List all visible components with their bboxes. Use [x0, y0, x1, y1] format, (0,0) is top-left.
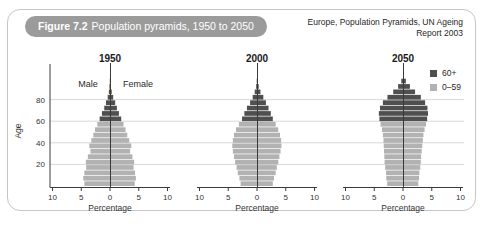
percentage-tick-label: 10	[456, 193, 465, 202]
legend-item-60plus: 60+	[430, 68, 461, 78]
pyramid-bar-female	[110, 138, 129, 143]
pyramid-bar-male	[95, 127, 110, 132]
pyramid-bar-female	[110, 149, 130, 154]
pyramid-title: 1950	[99, 53, 122, 64]
pyramid-bar-male	[89, 144, 110, 149]
pyramid-bar-female	[110, 106, 117, 111]
percentage-tick-label: 5	[430, 193, 435, 202]
source-citation: Europe, Population Pyramids, UN Ageing R…	[308, 17, 463, 39]
pyramid-1950: 1050510Percentage1950	[48, 53, 172, 213]
age-tick-label: 60	[36, 117, 45, 126]
pyramid-bar-female	[110, 154, 132, 159]
pyramid-bar-female	[110, 181, 135, 186]
pyramid-bar-male	[401, 79, 403, 84]
pyramid-bar-male	[83, 176, 110, 181]
pyramid-bar-male	[255, 90, 257, 95]
legend-label-60plus: 60+	[442, 68, 456, 78]
pyramid-2000: 1050510Percentage2000	[195, 53, 319, 213]
legend-label-0-59: 0–59	[442, 82, 461, 92]
pyramid-bar-male	[86, 165, 110, 170]
pyramid-bar-male	[242, 117, 257, 122]
percentage-axis-label: Percentage	[381, 203, 425, 213]
pyramid-bar-male	[239, 122, 257, 127]
age-axis-label: Age	[13, 123, 23, 138]
pyramid-bar-female	[403, 106, 427, 111]
pyramid-bar-female	[110, 144, 131, 149]
pyramid-bar-male	[236, 127, 257, 132]
pyramid-bar-male	[238, 171, 257, 176]
pyramid-bar-male	[386, 176, 403, 181]
pyramid-bar-female	[403, 138, 423, 143]
percentage-tick-label: 0	[401, 193, 406, 202]
pyramid-bar-female	[110, 176, 136, 181]
pyramid-bar-female	[403, 133, 423, 138]
pyramid-bar-female	[403, 127, 425, 132]
pyramid-bar-female	[403, 95, 421, 100]
pyramid-bar-male	[398, 84, 403, 89]
percentage-axis-label: Percentage	[88, 203, 132, 213]
pyramid-bar-female	[110, 133, 127, 138]
percentage-tick-label: 5	[137, 193, 142, 202]
pyramid-bar-male	[234, 133, 257, 138]
pyramid-bar-female	[110, 127, 126, 132]
percentage-tick-label: 5	[284, 193, 289, 202]
pyramid-bar-male	[232, 144, 257, 149]
pyramid-title: 2050	[392, 53, 415, 64]
pyramid-bar-female	[257, 106, 269, 111]
pyramid-bar-female	[403, 176, 419, 181]
pyramid-bar-female	[257, 117, 273, 122]
pyramid-bar-male	[384, 149, 403, 154]
legend-item-0-59: 0–59	[430, 82, 461, 92]
pyramid-bar-male	[109, 90, 110, 95]
age-tick-label: 20	[36, 160, 45, 169]
pyramid-bar-male	[393, 90, 403, 95]
pyramid-bar-female	[403, 154, 421, 159]
percentage-tick-label: 0	[108, 193, 113, 202]
percentage-axis-label: Percentage	[235, 203, 279, 213]
percentage-tick-label: 10	[341, 193, 350, 202]
pyramid-bar-male	[109, 84, 110, 89]
pyramid-bar-female	[257, 100, 266, 105]
pyramid-bar-female	[257, 149, 281, 154]
pyramid-bar-male	[386, 171, 403, 176]
male-label: Male	[78, 79, 98, 89]
pyramid-bar-female	[403, 122, 426, 127]
pyramid-bar-male	[383, 138, 403, 143]
percentage-tick-label: 5	[226, 193, 231, 202]
age-tick-label: 80	[36, 96, 45, 105]
pyramid-bar-female	[257, 181, 273, 186]
pyramid-bar-female	[403, 117, 427, 122]
legend: 60+ 0–59	[430, 68, 461, 96]
pyramid-bar-female	[257, 127, 278, 132]
pyramid-bar-female	[403, 160, 421, 165]
pyramid-bar-female	[257, 144, 281, 149]
figure-header-pill: Figure 7.2Population pyramids, 1950 to 2…	[25, 16, 267, 37]
pyramid-bar-male	[244, 111, 257, 116]
female-label: Female	[123, 79, 153, 89]
pyramid-bar-male	[90, 149, 110, 154]
pyramid-bar-female	[257, 133, 280, 138]
pyramid-bar-male	[88, 154, 110, 159]
pyramid-bar-female	[110, 171, 135, 176]
pyramid-bar-female	[403, 149, 422, 154]
pyramid-bar-female	[403, 100, 425, 105]
pyramid-bar-male	[241, 181, 257, 186]
pyramid-bar-male	[387, 95, 403, 100]
pyramid-bar-male	[97, 122, 110, 127]
pyramid-bar-male	[383, 100, 403, 105]
age-tick-label: 40	[36, 139, 45, 148]
pyramid-bar-male	[379, 117, 403, 122]
pyramid-bar-male	[234, 154, 257, 159]
percentage-tick-label: 10	[48, 193, 57, 202]
source-line-1: Europe, Population Pyramids, UN Ageing	[308, 17, 463, 28]
pyramid-bar-male	[384, 144, 403, 149]
pyramid-bar-female	[110, 117, 121, 122]
pyramid-bar-male	[233, 149, 257, 154]
percentage-tick-label: 10	[310, 193, 319, 202]
pyramid-title: 2000	[246, 53, 269, 64]
legend-swatch-60plus-icon	[430, 70, 437, 77]
pyramid-bar-female	[257, 111, 271, 116]
pyramid-bar-male	[256, 84, 257, 89]
pyramid-bar-male	[106, 100, 110, 105]
pyramid-bar-male	[100, 117, 110, 122]
